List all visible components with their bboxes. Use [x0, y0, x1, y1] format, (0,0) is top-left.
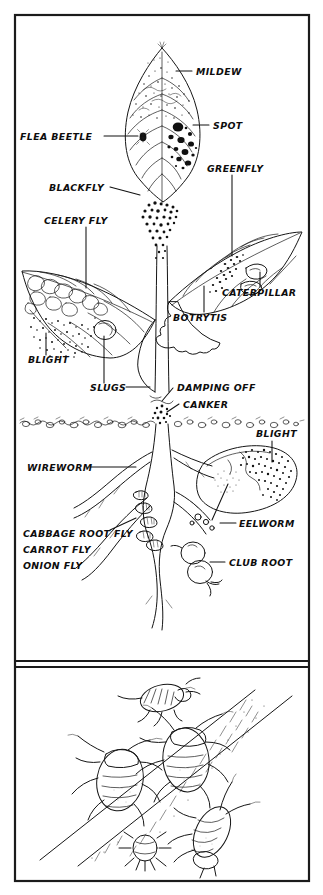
label-mildew: MILDEW: [196, 66, 242, 77]
figure-page: MILDEW SPOT GREENFLY FLEA BEETLE BLACKFL…: [0, 0, 323, 895]
label-club-root: CLUB ROOT: [229, 557, 294, 568]
label-spot: SPOT: [213, 120, 244, 131]
label-blackfly: BLACKFLY: [49, 182, 105, 193]
label-blight-leaf: BLIGHT: [28, 354, 70, 365]
label-celery-fly: CELERY FLY: [44, 215, 109, 226]
label-slugs: SLUGS: [90, 382, 126, 393]
label-greenfly: GREENFLY: [207, 163, 264, 174]
label-onion-fly: ONION FLY: [23, 560, 83, 571]
label-flea-beetle: FLEA BEETLE: [20, 131, 93, 142]
label-damping-off: DAMPING OFF: [177, 382, 256, 393]
label-botrytis: BOTRYTIS: [173, 312, 228, 323]
label-eelworm: EELWORM: [239, 518, 295, 529]
label-blight-tuber: BLIGHT: [256, 428, 298, 439]
figure-canvas: MILDEW SPOT GREENFLY FLEA BEETLE BLACKFL…: [0, 0, 323, 895]
label-canker: CANKER: [183, 399, 228, 410]
label-carrot-fly: CARROT FLY: [23, 544, 92, 555]
label-caterpillar: CATERPILLAR: [222, 287, 296, 298]
label-cabbage-root-fly: CABBAGE ROOT FLY: [23, 528, 134, 539]
label-wireworm: WIREWORM: [27, 462, 93, 473]
